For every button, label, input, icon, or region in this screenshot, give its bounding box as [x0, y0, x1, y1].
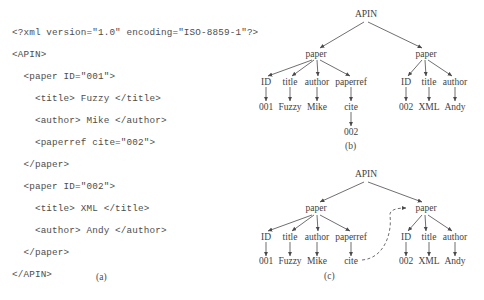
- tree-b-node-id-left: ID: [261, 77, 271, 87]
- tree-c-node-root: APIN: [355, 169, 377, 179]
- panel-caption-b: (b): [345, 141, 356, 151]
- tree-b-node-root: APIN: [355, 9, 377, 19]
- tree-c-node-author-left: author: [305, 232, 329, 242]
- tree-c-node-author-right: author: [443, 232, 467, 242]
- code-line: <?xml version="1.0" encoding="ISO-8859-1…: [12, 28, 258, 38]
- code-line: </paper>: [12, 160, 69, 170]
- tree-c-leaf-002: 002: [399, 256, 413, 266]
- tree-c-node-id-left: ID: [261, 232, 271, 242]
- tree-c-leaf-001: 001: [259, 256, 273, 266]
- tree-panel-b: APIN paper paper ID title author paperre…: [240, 0, 484, 152]
- code-line: <author> Mike </author>: [12, 116, 167, 126]
- code-line: <paperref cite="002">: [12, 138, 155, 148]
- tree-c-edges: [240, 160, 484, 290]
- xml-listing-panel: <?xml version="1.0" encoding="ISO-8859-1…: [0, 0, 240, 300]
- tree-b-node-author-right: author: [443, 77, 467, 87]
- tree-c-node-title-left: title: [283, 232, 298, 242]
- tree-b-node-paper-right: paper: [415, 49, 436, 59]
- tree-b-leaf-001: 001: [259, 102, 273, 112]
- code-line: <title> Fuzzy </title>: [12, 94, 161, 104]
- figure-canvas: <?xml version="1.0" encoding="ISO-8859-1…: [0, 0, 484, 300]
- code-line: <paper ID="001">: [12, 72, 115, 82]
- tree-b-node-title-right: title: [422, 77, 437, 87]
- code-line: <paper ID="002">: [12, 182, 115, 192]
- tree-b-leaf-fuzzy: Fuzzy: [278, 102, 301, 112]
- tree-c-node-paper-right: paper: [415, 203, 436, 213]
- tree-b-node-author-left: author: [305, 77, 329, 87]
- code-line: </APIN>: [12, 270, 52, 280]
- tree-b-leaf-andy: Andy: [444, 102, 465, 112]
- tree-c-reference-edge: [362, 208, 406, 260]
- tree-b-node-title-left: title: [283, 77, 298, 87]
- tree-b-leaf-mike: Mike: [307, 102, 327, 112]
- code-line: </paper>: [12, 248, 69, 258]
- tree-b-leaf-cite: cite: [344, 102, 358, 112]
- tree-c-leaf-fuzzy: Fuzzy: [278, 256, 301, 266]
- tree-c-node-id-right: ID: [401, 232, 411, 242]
- tree-c-node-title-right: title: [422, 232, 437, 242]
- tree-b-node-paperref: paperref: [335, 77, 367, 87]
- code-line: <title> XML </title>: [12, 204, 150, 214]
- tree-b-node-paper-left: paper: [305, 49, 326, 59]
- panel-caption-a: (a): [96, 272, 107, 282]
- tree-c-leaf-mike: Mike: [307, 256, 327, 266]
- tree-b-leaf-cite-value: 002: [344, 127, 358, 137]
- tree-c-leaf-andy: Andy: [444, 256, 465, 266]
- tree-b-node-id-right: ID: [401, 77, 411, 87]
- tree-c-leaf-cite: cite: [344, 256, 358, 266]
- code-line: <author> Andy </author>: [12, 226, 167, 236]
- tree-panel-c: APIN paper paper ID title author paperre…: [240, 160, 484, 290]
- code-line: <APIN>: [12, 50, 46, 60]
- tree-b-edges: [240, 0, 484, 152]
- panel-caption-c: (c): [324, 271, 335, 281]
- tree-b-leaf-002: 002: [399, 102, 413, 112]
- tree-c-node-paperref: paperref: [335, 232, 367, 242]
- tree-c-leaf-xml: XML: [418, 256, 439, 266]
- tree-c-node-paper-left: paper: [305, 203, 326, 213]
- tree-b-leaf-xml: XML: [418, 102, 439, 112]
